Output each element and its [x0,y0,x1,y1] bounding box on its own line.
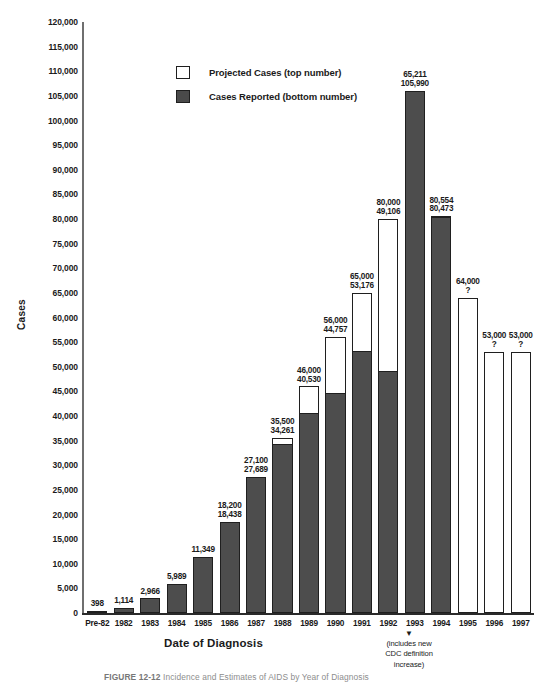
y-axis-tick-label: 10,000 [53,559,78,569]
reported-cases-segment[interactable] [352,351,372,613]
bar-group[interactable]: 27,10027,689 [243,22,269,613]
bar-group[interactable]: 64,000? [455,22,481,613]
y-axis-tick-label: 15,000 [53,534,78,544]
x-axis-tick-label: 1996 [481,618,507,628]
x-axis-line [82,613,534,615]
x-axis-tick-label: 1986 [216,618,242,628]
annotation-line: increase) [355,660,463,670]
projected-cases-segment[interactable] [484,352,504,613]
bar-group[interactable]: 11,349 [190,22,216,613]
x-axis-title-text: Date of Diagnosis [164,637,373,649]
x-axis-tick-label: 1983 [137,618,163,628]
y-axis-tick-label: 40,000 [53,411,78,421]
figure-number: FIGURE 12-12 [104,672,161,682]
cdc-definition-annotation: ▼ (includes newCDC definitionincrease) [355,630,463,670]
x-axis-tick-label: 1993 [402,618,428,628]
y-axis-tick-label: 120,000 [48,17,78,27]
reported-cases-segment[interactable] [193,557,213,613]
y-axis-tick-label: 5,000 [57,583,78,593]
reported-cases-segment[interactable] [431,217,451,613]
y-axis-tick-label: 100,000 [48,116,78,126]
reported-cases-segment[interactable] [114,608,134,613]
y-axis-tick-label: 35,000 [53,436,78,446]
y-axis-tick-label: 65,000 [53,288,78,298]
y-axis-tick-label: 60,000 [53,313,78,323]
x-axis-tick-label: Pre-82 [84,618,110,628]
reported-cases-segment[interactable] [299,413,319,613]
bar-group[interactable]: 65,211105,990 [402,22,428,613]
x-axis-tick-label: 1984 [163,618,189,628]
annotation-line: CDC definition [355,649,463,659]
y-axis-tick-label: 110,000 [48,66,78,76]
y-axis-tick-label: 115,000 [48,42,78,52]
annotation-line: (includes new [355,639,463,649]
reported-cases-segment[interactable] [220,522,240,613]
x-axis-tick-label: 1995 [455,618,481,628]
y-axis-tick-label: 80,000 [53,214,78,224]
x-axis-tick-label: 1992 [375,618,401,628]
bar-group[interactable]: 80,00049,106 [375,22,401,613]
bar-group[interactable]: 5,989 [163,22,189,613]
reported-cases-segment[interactable] [405,91,425,613]
plot-area: 3981,1142,9665,98911,34918,20018,43827,1… [84,22,534,613]
projected-cases-segment[interactable] [511,352,531,613]
y-axis-tick-label: 90,000 [53,165,78,175]
bar-group[interactable]: 35,50034,261 [269,22,295,613]
bar-group[interactable]: 80,55480,473 [428,22,454,613]
bar-group[interactable]: 65,00053,176 [349,22,375,613]
figure-caption: FIGURE 12-12 Incidence and Estimates of … [104,672,504,682]
reported-value-label: ? [485,341,537,350]
reported-cases-segment[interactable] [87,611,107,613]
bar-group[interactable]: 56,00044,757 [322,22,348,613]
down-arrow-icon: ▼ [355,630,463,638]
bar-group[interactable]: 1,114 [110,22,136,613]
y-axis-tick-label: 55,000 [53,337,78,347]
x-axis-tick-label: 1988 [269,618,295,628]
bar-group[interactable]: 18,20018,438 [216,22,242,613]
reported-cases-segment[interactable] [140,598,160,613]
x-axis-tick-label: 1985 [190,618,216,628]
reported-cases-segment[interactable] [272,444,292,613]
bar-value-labels: 53,000? [485,332,537,350]
reported-cases-segment[interactable] [167,584,187,613]
y-axis-tick-label: 25,000 [53,485,78,495]
reported-cases-segment[interactable] [325,393,345,613]
bar-group[interactable]: 53,000? [508,22,534,613]
y-axis-tick-label: 105,000 [48,91,78,101]
x-axis-tick-labels: Pre-821982198319841985198619871988198919… [84,618,534,636]
projected-value-label: 53,000 [485,332,537,341]
x-axis-tick-label: 1997 [508,618,534,628]
reported-cases-segment[interactable] [378,371,398,613]
y-axis-tick-label: 75,000 [53,239,78,249]
bar-group[interactable]: 53,000? [481,22,507,613]
y-axis-tick-label: 95,000 [53,140,78,150]
x-axis-tick-label: 1987 [243,618,269,628]
y-axis-tick-label: 45,000 [53,386,78,396]
x-axis-tick-label: 1994 [428,618,454,628]
y-axis-tick-label: 20,000 [53,510,78,520]
bar-group[interactable]: 2,966 [137,22,163,613]
x-axis-tick-label: 1990 [322,618,348,628]
aids-cases-bar-chart: Cases 05,00010,00015,00020,00025,00030,0… [0,0,537,684]
y-axis-tick-label: 30,000 [53,460,78,470]
reported-cases-segment[interactable] [246,477,266,613]
y-axis-tick-label: 85,000 [53,189,78,199]
y-axis-tick-labels: 05,00010,00015,00020,00025,00030,00035,0… [0,0,82,684]
figure-caption-text: Incidence and Estimates of AIDS by Year … [163,672,369,682]
y-axis-tick-label: 0 [73,608,78,618]
y-axis-tick-label: 70,000 [53,263,78,273]
bar-group[interactable]: 398 [84,22,110,613]
x-axis-tick-label: 1991 [349,618,375,628]
x-axis-tick-label: 1989 [296,618,322,628]
y-axis-tick-label: 50,000 [53,362,78,372]
x-axis-tick-label: 1982 [110,618,136,628]
